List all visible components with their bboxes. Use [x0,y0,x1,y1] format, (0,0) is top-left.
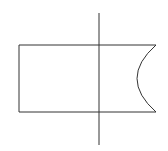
concave-rectangle-shape [19,45,156,112]
diagram-canvas [0,0,168,151]
